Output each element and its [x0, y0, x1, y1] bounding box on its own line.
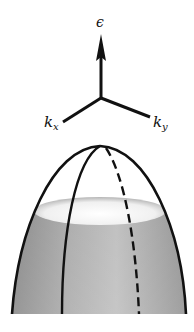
energy-axis-arrowhead-icon [96, 34, 106, 61]
kx-axis [63, 98, 101, 122]
kx-label: kx [44, 113, 59, 132]
energy-label: ϵ [96, 14, 104, 30]
band-diagram: ϵ kx ky [0, 0, 194, 332]
ky-axis [101, 98, 150, 117]
axes: ϵ kx ky [44, 14, 168, 132]
ky-label: ky [153, 113, 168, 132]
paraboloid-surface [0, 140, 194, 320]
constant-energy-cap [34, 197, 166, 225]
